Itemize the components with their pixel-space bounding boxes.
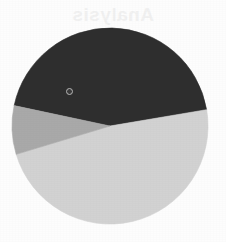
scanned-page: Analysis bbox=[0, 0, 226, 242]
pie-slice-group bbox=[12, 28, 208, 224]
pie-chart-svg bbox=[0, 0, 226, 242]
pie-chart bbox=[0, 0, 226, 242]
slice-point-marker bbox=[66, 88, 73, 95]
pie-slice bbox=[14, 28, 206, 126]
